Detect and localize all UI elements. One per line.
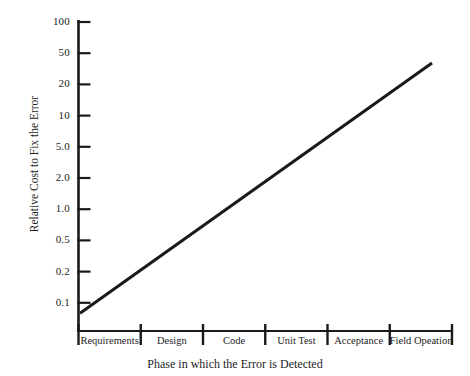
x-tick-label: Requirements: [79, 335, 141, 346]
x-axis-title: Phase in which the Error is Detected: [0, 358, 470, 371]
data-line: [80, 63, 432, 313]
x-tick-label: Acceptance: [328, 335, 390, 346]
x-tick-label: Unit Test: [265, 335, 327, 346]
chart-figure: 1005020105.02.01.00.50.20.1 Requirements…: [0, 0, 470, 376]
y-tick-label: 50: [30, 47, 70, 58]
chart-plot-area: [0, 0, 470, 376]
y-tick-label: 100: [30, 16, 70, 27]
x-tick-label: Design: [141, 335, 203, 346]
x-tick-label: Field Opeation: [390, 335, 452, 346]
y-tick-label: 0.1: [30, 297, 70, 308]
y-tick-label: 0.2: [30, 266, 70, 277]
y-axis-title: Relative Cost to Fix the Error: [28, 64, 40, 264]
x-tick-label: Code: [203, 335, 265, 346]
data-series-group: [80, 63, 432, 313]
